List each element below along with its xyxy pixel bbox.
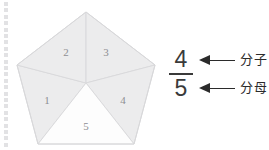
fraction-denominator: 5 xyxy=(164,77,198,100)
sector-number-1: 1 xyxy=(44,94,50,106)
callout-denominator: 分母 xyxy=(199,80,268,96)
sector-number-2: 2 xyxy=(63,46,69,58)
arrow-left-icon xyxy=(199,83,235,94)
fraction-display: 4 5 xyxy=(164,48,198,100)
callout-numerator-label: 分子 xyxy=(240,53,268,67)
callout-denominator-label: 分母 xyxy=(240,81,268,95)
sector-number-4: 4 xyxy=(120,94,126,106)
sector-number-5: 5 xyxy=(83,120,89,132)
arrow-left-icon xyxy=(199,55,235,66)
sector-number-3: 3 xyxy=(103,46,109,58)
worksheet-page: 12345 4 5 分子 分母 xyxy=(0,0,269,150)
fraction-numerator: 4 xyxy=(164,48,198,71)
callout-numerator: 分子 xyxy=(199,52,268,68)
pentagon-svg: 12345 xyxy=(0,0,175,150)
pentagon-fraction-figure: 12345 xyxy=(0,0,175,150)
